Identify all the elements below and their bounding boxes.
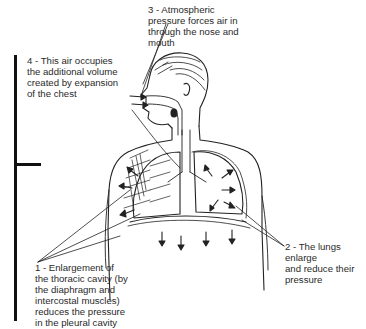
label-step-4-air-occupies-volume: 4 - This air occupies the additional vol… <box>27 55 157 99</box>
label-step-2-lungs-enlarge: 2 - The lungs enlarge and reduce their p… <box>285 241 366 285</box>
label-step-1-thoracic-enlargement: 1 - Enlargement of the thoracic cavity (… <box>35 262 165 328</box>
label-step-3-atmospheric-pressure: 3 - Atmospheric pressure forces air in t… <box>148 4 348 48</box>
